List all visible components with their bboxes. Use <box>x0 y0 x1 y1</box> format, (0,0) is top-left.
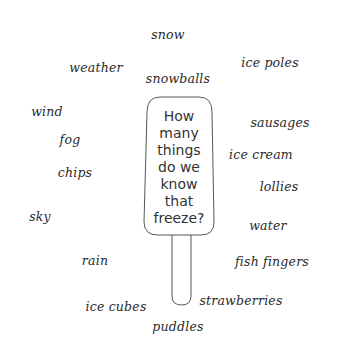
word-fish-fingers: fish fingers <box>235 254 309 269</box>
freeze-worksheet: How many things do we know that freeze? … <box>0 0 337 355</box>
word-wind: wind <box>31 104 63 119</box>
word-rain: rain <box>82 253 108 268</box>
word-puddles: puddles <box>152 319 203 334</box>
question-line: How <box>146 108 212 125</box>
word-sausages: sausages <box>250 115 309 130</box>
word-ice-cream: ice cream <box>229 147 293 162</box>
word-strawberries: strawberries <box>199 293 282 308</box>
popsicle-stick <box>172 235 191 305</box>
question-line: things <box>146 142 212 159</box>
word-fog: fog <box>60 132 81 147</box>
question-line: know that <box>146 176 212 210</box>
word-snow: snow <box>151 27 185 42</box>
word-ice-poles: ice poles <box>241 55 299 70</box>
question-line: do we <box>146 159 212 176</box>
word-snowballs: snowballs <box>146 71 210 86</box>
word-water: water <box>249 218 287 233</box>
word-chips: chips <box>58 165 92 180</box>
word-sky: sky <box>29 209 51 224</box>
question-line: freeze? <box>146 210 212 227</box>
central-question: How many things do we know that freeze? <box>146 108 212 227</box>
word-weather: weather <box>69 60 122 75</box>
word-ice-cubes: ice cubes <box>85 299 146 314</box>
question-line: many <box>146 125 212 142</box>
word-lollies: lollies <box>260 179 299 194</box>
